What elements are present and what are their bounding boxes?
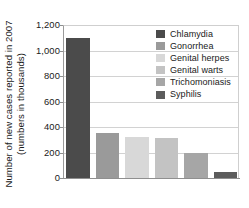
y-tick-label: 200 — [2, 148, 60, 157]
legend: ChlamydiaGonorrheaGenital herpesGenital … — [156, 28, 248, 101]
legend-label: Genital warts — [170, 66, 223, 75]
legend-label: Genital herpes — [170, 54, 229, 63]
legend-swatch-icon — [156, 78, 165, 86]
legend-label: Trichomoniasis — [170, 78, 231, 87]
legend-swatch-icon — [156, 66, 165, 74]
x-axis-line — [63, 178, 240, 179]
legend-item: Trichomoniasis — [156, 76, 248, 88]
legend-item: Genital warts — [156, 64, 248, 76]
bar — [214, 172, 238, 178]
y-tick-label: 1,000 — [2, 46, 60, 55]
bar — [96, 133, 120, 178]
y-tick-label: 0 — [2, 173, 60, 182]
legend-swatch-icon — [156, 30, 165, 38]
legend-label: Chlamydia — [170, 30, 213, 39]
bar-chart-figure: Number of new cases reported in 2007 (nu… — [0, 0, 249, 208]
legend-item: Chlamydia — [156, 28, 248, 40]
legend-item: Genital herpes — [156, 52, 248, 64]
legend-swatch-icon — [156, 42, 165, 50]
legend-swatch-icon — [156, 54, 165, 62]
bar — [155, 138, 179, 178]
y-tick-label: 1,200 — [2, 20, 60, 29]
legend-swatch-icon — [156, 91, 165, 99]
legend-item: Syphilis — [156, 88, 248, 100]
y-tick-label: 400 — [2, 122, 60, 131]
bar — [125, 137, 149, 178]
legend-label: Gonorrhea — [170, 42, 213, 51]
legend-item: Gonorrhea — [156, 40, 248, 52]
y-tick-label: 800 — [2, 71, 60, 80]
bar — [66, 38, 90, 178]
bar — [184, 153, 208, 179]
legend-label: Syphilis — [170, 90, 201, 99]
y-tick-label: 600 — [2, 97, 60, 106]
